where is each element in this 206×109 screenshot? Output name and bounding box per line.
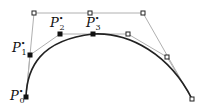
point-labels: P•0P•1P•2P•3	[9, 14, 101, 105]
hollow-point-marker	[190, 97, 194, 101]
filled-point-marker	[28, 53, 33, 58]
bezier-diagram: P•0P•1P•2P•3	[0, 0, 206, 109]
hollow-point-marker	[32, 11, 36, 15]
label-p1: P•1	[11, 39, 27, 57]
inner-control-polygon	[26, 34, 192, 99]
bezier-curve	[26, 34, 192, 99]
filled-point-marker	[91, 32, 96, 37]
filled-point-marker	[58, 32, 63, 37]
label-p0: P•0	[9, 87, 25, 105]
label-p2: P•2	[49, 14, 65, 32]
hollow-point-marker	[126, 32, 130, 36]
diagram-svg: P•0P•1P•2P•3	[0, 0, 206, 109]
hollow-point-marker	[141, 11, 145, 15]
label-p3: P•3	[85, 14, 101, 32]
hollow-point-marker	[165, 55, 169, 59]
